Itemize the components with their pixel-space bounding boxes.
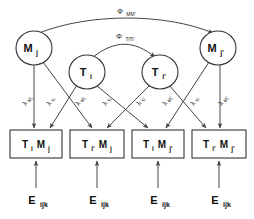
latent-node-method-jprime-label: M — [207, 42, 216, 54]
loading-label-5-subscript: Ti' — [141, 97, 148, 103]
correlation-label-method-base: Φ — [117, 7, 123, 16]
observed-indicator-2-method-subscript: j — [109, 145, 112, 153]
error-term-1-subscript: ijk — [40, 201, 48, 209]
loading-label-2: λ Ti — [45, 96, 57, 108]
observed-indicator-4-method-subscript: j' — [230, 145, 235, 153]
latent-node-method-j-label: M — [23, 42, 32, 54]
correlation-arc-method — [39, 18, 213, 33]
loading-label-6: λ Mj' — [161, 94, 174, 108]
error-term-1-label: E — [28, 194, 35, 206]
correlation-arc-trait — [93, 44, 155, 57]
observed-indicator-4[interactable]: T i' M j' — [192, 130, 246, 158]
latent-node-method-jprime[interactable]: M j' — [200, 31, 236, 65]
correlation-label-method-subscript: MM' — [126, 11, 135, 17]
error-term-2-label: E — [89, 194, 96, 206]
loading-label-7-subscript: Ti' — [195, 97, 202, 103]
error-term-4-label: E — [211, 194, 218, 206]
observed-indicator-3-trait-subscript: i — [152, 145, 154, 152]
observed-indicator-4-trait-subscript: i' — [212, 145, 216, 152]
loading-label-2-subscript: Ti — [51, 97, 57, 103]
observed-indicator-1[interactable]: T i M j — [10, 130, 62, 158]
loading-label-6-subscript: Mj' — [167, 95, 174, 103]
observed-indicator-3[interactable]: T i M j' — [132, 130, 184, 158]
observed-indicator-1-trait: T — [22, 139, 28, 150]
observed-indicator-2-trait-subscript: i' — [91, 145, 95, 152]
observed-indicator-2-method: M — [99, 139, 107, 150]
observed-indicator-4-method: M — [220, 139, 228, 150]
loading-label-3-subscript: Mj — [80, 96, 87, 103]
loading-label-1: λ Mj — [21, 94, 34, 107]
error-term-3-label: E — [150, 194, 157, 206]
latent-node-trait-iprime[interactable]: T i' — [142, 55, 178, 89]
latent-node-trait-iprime-label: T — [152, 66, 159, 78]
correlation-label-trait-subscript: TiTi' — [126, 36, 135, 42]
observed-indicator-4-trait: T — [203, 139, 209, 150]
error-term-2-subscript: ijk — [101, 201, 109, 209]
latent-node-trait-i[interactable]: T i — [69, 55, 105, 89]
observed-indicator-2[interactable]: T i' M j — [70, 130, 124, 158]
correlation-label-trait-base: Φ — [116, 32, 122, 41]
latent-node-trait-i-label: T — [80, 66, 87, 78]
latent-node-trait-i-subscript: i — [90, 73, 92, 80]
correlation-label-trait: Φ TiTi' — [116, 32, 134, 42]
loading-paths — [34, 62, 220, 128]
path-diagram: M j M j' T i T i' T i M j T — [0, 0, 254, 219]
loading-label-5: λ Ti' — [135, 95, 147, 108]
observed-indicator-1-method: M — [37, 139, 45, 150]
error-term-4-subscript: ijk — [223, 201, 231, 209]
loading-label-8-subscript: Mj' — [223, 95, 230, 103]
observed-indicator-1-trait-subscript: i — [31, 145, 33, 152]
error-term-4: E ijk — [211, 194, 231, 209]
observed-indicator-3-method-subscript: j' — [168, 145, 173, 153]
error-paths — [36, 161, 219, 188]
loading-label-8: λ Mj' — [217, 94, 230, 108]
observed-indicator-1-method-subscript: j — [47, 145, 50, 153]
loading-label-7: λ Ti' — [189, 95, 201, 108]
latent-node-method-j[interactable]: M j — [16, 31, 52, 65]
error-term-2: E ijk — [89, 194, 109, 209]
correlation-label-method: Φ MM' — [117, 7, 136, 17]
observed-indicator-2-trait: T — [82, 139, 88, 150]
loading-label-1-subscript: Mj — [27, 96, 34, 103]
observed-indicator-3-trait: T — [143, 139, 149, 150]
observed-indicator-3-method: M — [158, 139, 166, 150]
latent-node-method-jprime-subscript: j' — [219, 49, 224, 57]
error-term-3-subscript: ijk — [162, 201, 170, 209]
error-term-3: E ijk — [150, 194, 170, 209]
error-term-1: E ijk — [28, 194, 48, 209]
latent-node-trait-iprime-subscript: i' — [162, 73, 166, 80]
diagram-canvas: M j M j' T i T i' T i M j T — [0, 0, 254, 219]
latent-node-method-j-subscript: j — [35, 49, 38, 57]
